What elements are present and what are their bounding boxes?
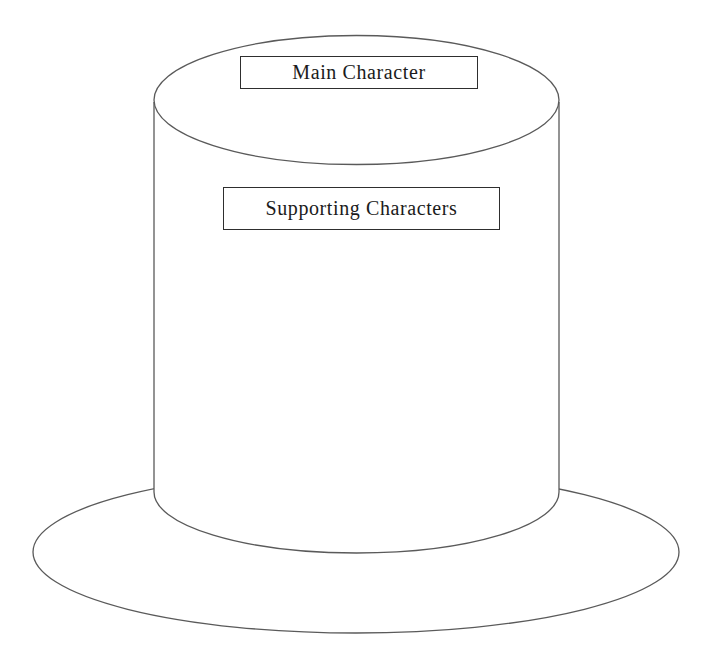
supporting-characters-label-box: Supporting Characters xyxy=(223,187,500,230)
main-character-label: Main Character xyxy=(292,61,425,84)
supporting-characters-label: Supporting Characters xyxy=(265,197,457,220)
cylinder-body-fill xyxy=(154,100,559,553)
cylinder-top-ellipse xyxy=(154,36,559,165)
hat-diagram: Main Character Supporting Characters xyxy=(0,0,712,661)
main-character-label-box: Main Character xyxy=(240,56,478,89)
hat-diagram-drawing xyxy=(0,0,712,661)
